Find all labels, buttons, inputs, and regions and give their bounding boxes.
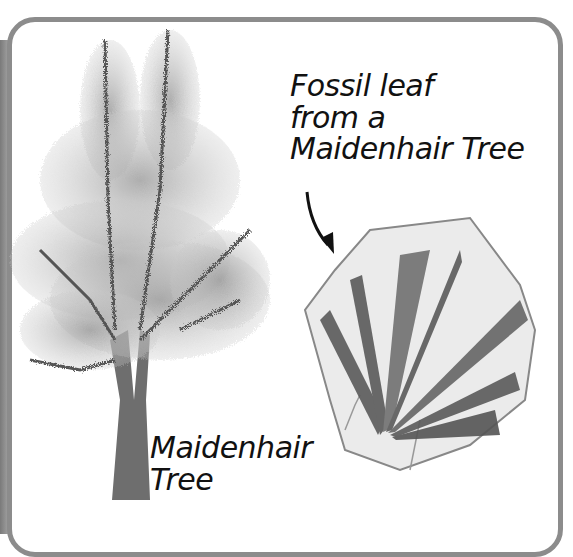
tree-caption-line-1: Maidenhair bbox=[150, 432, 312, 464]
fossil-leaf-drawing bbox=[305, 218, 535, 470]
tree-caption-line-2: Tree bbox=[150, 464, 312, 496]
tree-caption: Maidenhair Tree bbox=[150, 432, 312, 495]
fossil-caption-line-3: Maidenhair Tree bbox=[290, 133, 524, 165]
fossil-leaf-caption: Fossil leaf from a Maidenhair Tree bbox=[290, 70, 524, 165]
fossil-caption-line-2: from a bbox=[290, 102, 524, 134]
arrow-pointer bbox=[307, 192, 334, 254]
fossil-caption-line-1: Fossil leaf bbox=[290, 70, 524, 102]
